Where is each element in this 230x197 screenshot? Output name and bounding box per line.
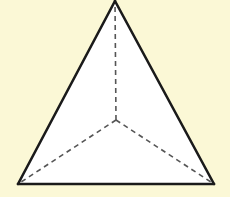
tetrahedron-diagram [0,0,230,197]
